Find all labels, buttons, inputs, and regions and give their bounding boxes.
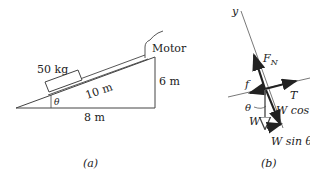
physics-diagram: 50 kg 10 m 8 m 6 m Motor θ (a) y FN T f … [0, 0, 310, 184]
tension-label: T [290, 89, 299, 102]
tension-arrow [265, 81, 296, 89]
friction-label: f [244, 78, 251, 91]
base-label: 8 m [84, 111, 105, 124]
weight-sin-label: W sin θ [271, 135, 310, 148]
rail-upper [80, 55, 145, 79]
figure-a: 50 kg 10 m 8 m 6 m Motor θ (a) [16, 31, 187, 170]
height-label: 6 m [159, 75, 180, 88]
figure-b: y FN T f W W cos W sin θ θ (b) [228, 5, 310, 170]
mass-label: 50 kg [37, 63, 68, 76]
hypotenuse-label: 10 m [84, 80, 115, 102]
weight-label: W [249, 115, 262, 128]
caption-b: (b) [261, 157, 277, 170]
y-axis-label: y [231, 5, 239, 18]
angle-label-a: θ [54, 97, 60, 107]
caption-a: (a) [83, 157, 98, 170]
normal-force-label: FN [262, 52, 279, 67]
weight-cos-label: W cos [276, 104, 310, 117]
weight-sin-arrow [267, 124, 281, 128]
angle-label-b: θ [245, 102, 251, 113]
motor-label: Motor [152, 42, 187, 55]
